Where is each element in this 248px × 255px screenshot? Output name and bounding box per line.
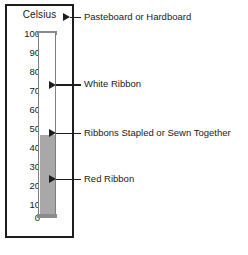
callout-arrow-white-ribbon-icon (49, 81, 56, 89)
callout-leader-white-ribbon (56, 84, 81, 86)
callout-label-pasteboard: Pasteboard or Hardboard (84, 12, 191, 22)
callout-label-red-ribbon: Red Ribbon (84, 174, 134, 184)
callout-arrow-pasteboard-icon (63, 13, 70, 21)
thermometer-diagram: Celsius 100 90 80 70 60 50 40 30 20 10 0… (0, 0, 248, 255)
callout-leader-stapled (56, 133, 81, 135)
callout-arrow-stapled-icon (49, 129, 56, 137)
callout-leader-pasteboard (70, 17, 81, 19)
callout-label-white-ribbon: White Ribbon (84, 79, 141, 89)
callout-arrow-red-ribbon-icon (49, 175, 56, 183)
callout-label-stapled: Ribbons Stapled or Sewn Together (84, 128, 231, 138)
callout-leader-red-ribbon (56, 179, 81, 181)
tube-bottom-cap (37, 214, 57, 218)
